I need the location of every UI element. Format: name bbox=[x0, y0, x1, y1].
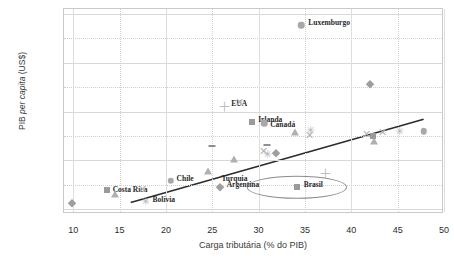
data-point-marker: ✳ bbox=[395, 125, 404, 136]
gridline-vertical bbox=[73, 9, 74, 212]
data-point-label: Luxemburgo bbox=[308, 18, 350, 27]
data-point-marker: ＋ bbox=[319, 166, 332, 179]
data-point-marker bbox=[104, 187, 110, 193]
x-axis-tick-label: 25 bbox=[192, 225, 232, 235]
y-axis-title: PIB per capita (US$) bbox=[17, 21, 27, 161]
gridline-vertical bbox=[120, 9, 121, 212]
plot-area: 1000020000300004000050000600007000080000… bbox=[63, 8, 443, 213]
data-point-marker: ✕ bbox=[138, 183, 147, 194]
gridline-horizontal bbox=[64, 160, 442, 161]
y-axis-title-italic: per capita bbox=[17, 77, 27, 114]
data-point-marker bbox=[204, 168, 212, 175]
x-axis-tick-label: 50 bbox=[424, 225, 454, 235]
data-point-marker bbox=[261, 120, 268, 127]
data-point-marker: ✳ bbox=[141, 196, 150, 207]
data-point-marker bbox=[167, 177, 174, 184]
x-axis-tick-label: 10 bbox=[53, 225, 93, 235]
data-point-label: Bolívia bbox=[153, 195, 176, 204]
data-point-label: Argentina bbox=[227, 180, 260, 189]
data-point-marker bbox=[291, 129, 299, 136]
data-point-marker: ＋ bbox=[218, 100, 231, 113]
data-point-marker bbox=[111, 190, 119, 197]
gridline-horizontal bbox=[64, 87, 442, 88]
gridline-vertical bbox=[212, 9, 213, 212]
data-point-marker bbox=[370, 137, 378, 144]
x-axis-tick-label: 20 bbox=[146, 225, 186, 235]
gridline-vertical bbox=[351, 9, 352, 212]
data-point-label: Chile bbox=[177, 174, 194, 183]
y-axis-title-suffix: (US$) bbox=[17, 52, 27, 77]
x-axis-tick-label: 35 bbox=[285, 225, 325, 235]
scatter-chart: PIB per capita (US$) 1000020000300004000… bbox=[0, 0, 454, 261]
data-point-marker: ✕ bbox=[378, 127, 387, 138]
data-point-marker bbox=[230, 155, 238, 162]
data-point-marker: ✕ bbox=[235, 96, 244, 107]
gridline-vertical bbox=[444, 9, 445, 212]
data-point-label: Brasil bbox=[304, 180, 323, 189]
data-point-marker bbox=[298, 22, 305, 29]
x-axis-tick-label: 30 bbox=[239, 225, 279, 235]
gridline-horizontal bbox=[64, 14, 442, 15]
y-axis-title-text: PIB bbox=[17, 114, 27, 130]
data-point-marker bbox=[209, 145, 216, 147]
x-axis-title: Carga tributária (% do PIB) bbox=[63, 240, 443, 250]
gridline-horizontal bbox=[64, 112, 442, 113]
x-axis-tick-label: 45 bbox=[378, 225, 418, 235]
data-point-marker bbox=[420, 128, 427, 135]
x-axis-tick-label: 40 bbox=[331, 225, 371, 235]
gridline-vertical bbox=[398, 9, 399, 212]
x-axis-tick-label: 15 bbox=[100, 225, 140, 235]
gridline-horizontal bbox=[64, 38, 442, 39]
data-point-marker bbox=[249, 119, 255, 125]
data-point-marker bbox=[294, 184, 300, 190]
data-point-marker: ✳ bbox=[263, 148, 272, 159]
data-point-marker: ✕ bbox=[305, 130, 314, 141]
gridline-horizontal bbox=[64, 209, 442, 210]
gridline-horizontal bbox=[64, 63, 442, 64]
